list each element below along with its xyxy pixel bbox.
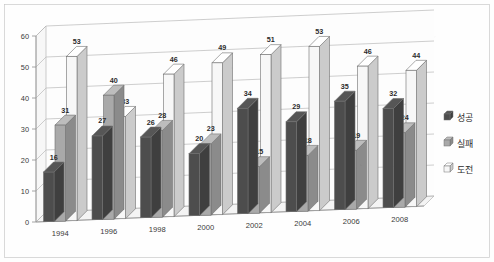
- legend-label: 실패: [457, 139, 473, 149]
- y-tick-label: 0: [25, 218, 29, 227]
- y-tick-label: 30: [21, 125, 29, 134]
- legend-swatch: [444, 114, 450, 120]
- bar-성공-2004: [286, 112, 307, 212]
- bar-성공-2002: [238, 98, 259, 213]
- y-tick-label: 60: [21, 32, 29, 41]
- bar-value-label: 51: [267, 35, 275, 44]
- bar-value-label: 35: [341, 82, 349, 91]
- bar-value-label: 34: [244, 89, 252, 98]
- bar-value-label: 49: [218, 43, 226, 52]
- bar-value-label: 20: [195, 134, 203, 143]
- y-tick-label: 20: [21, 156, 29, 165]
- bar-value-label: 26: [147, 118, 155, 127]
- x-tick-label-2004: 2004: [294, 219, 311, 228]
- legend-item-실패[interactable]: 실패: [444, 137, 473, 149]
- y-tick-label: 10: [21, 187, 29, 196]
- bar-value-label: 23: [207, 124, 215, 133]
- x-tick-label-2008: 2008: [391, 215, 408, 224]
- chart-legend: 성공실패도전: [444, 111, 473, 175]
- bar-성공-2006: [335, 91, 356, 210]
- legend-item-도전[interactable]: 도전: [444, 163, 473, 175]
- bar-value-label: 53: [73, 37, 81, 46]
- x-tick-label-1996: 1996: [100, 227, 117, 236]
- x-tick-label-2002: 2002: [246, 221, 263, 230]
- bar-value-label: 31: [61, 106, 69, 115]
- bar-value-label: 28: [158, 111, 166, 120]
- bar-성공-1998: [141, 127, 162, 218]
- bar-value-label: 46: [170, 55, 178, 64]
- legend-swatch: [444, 166, 450, 172]
- bar-value-label: 46: [364, 47, 372, 56]
- bar-성공-2008: [383, 98, 404, 207]
- legend-item-성공[interactable]: 성공: [444, 111, 473, 123]
- bar-value-label: 44: [412, 51, 420, 60]
- bar-성공-1994: [44, 162, 65, 222]
- y-tick-label: 40: [21, 94, 29, 103]
- bar-chart-canvas: 60 50 40 30 20 10 0 53334649515346443140…: [0, 0, 494, 262]
- bar-value-label: 27: [98, 116, 106, 125]
- legend-label: 성공: [457, 113, 473, 123]
- legend-swatch: [444, 140, 450, 146]
- x-tick-label-1994: 1994: [52, 229, 69, 238]
- legend-label: 도전: [457, 165, 473, 175]
- x-tick-label-2006: 2006: [343, 217, 360, 226]
- bar-value-label: 16: [50, 153, 58, 162]
- bar-value-label: 32: [389, 89, 397, 98]
- x-tick-label-1998: 1998: [149, 225, 166, 234]
- bar-성공-2000: [189, 144, 210, 216]
- bar-value-label: 40: [110, 76, 118, 85]
- bar-value-label: 53: [315, 27, 323, 36]
- bar-value-label: 29: [292, 102, 300, 111]
- chart-figure: 60 50 40 30 20 10 0 53334649515346443140…: [0, 0, 494, 262]
- y-axis-tick-labels: 60 50 40 30 20 10 0: [21, 32, 29, 227]
- bar-성공-1996: [92, 126, 113, 220]
- y-tick-label: 50: [21, 63, 29, 72]
- y-axis-ticks: [32, 36, 36, 222]
- x-tick-label-2000: 2000: [197, 223, 214, 232]
